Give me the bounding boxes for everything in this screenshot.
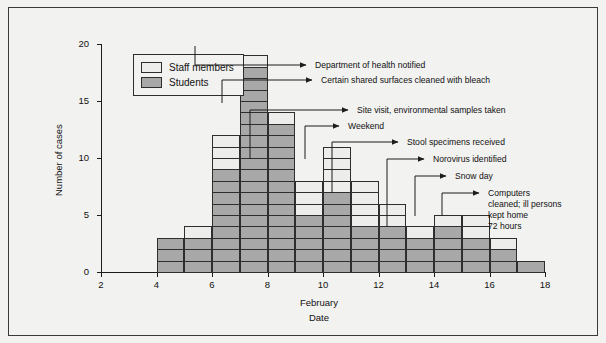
annotation-site-visit-samples: Site visit, environmental samples taken <box>357 105 506 116</box>
annotation-surfaces-cleaned-bleach: Certain shared surfaces cleaned with ble… <box>321 75 490 86</box>
annotation-norovirus-identified: Norovirus identified <box>433 154 507 165</box>
epi-curve-figure: 05101520 24681012141618 Number of cases … <box>0 0 606 343</box>
annotation-computers-cleaned-line3: kept home <box>488 210 528 221</box>
figure-frame: 05101520 24681012141618 Number of cases … <box>8 7 598 336</box>
annotation-computers-cleaned-line4: 72 hours <box>488 221 521 232</box>
annotation-stool-specimens-received: Stool specimens received <box>407 137 505 148</box>
annotation-computers-cleaned-line2: cleaned; ill persons <box>488 199 562 210</box>
annotation-snow-day: Snow day <box>455 171 493 182</box>
annotation-department-health-notified: Department of health notified <box>315 60 425 71</box>
annotation-weekend: Weekend <box>348 121 384 132</box>
leader-lines <box>9 8 599 337</box>
annotation-computers-cleaned-line1: Computers <box>488 188 530 199</box>
